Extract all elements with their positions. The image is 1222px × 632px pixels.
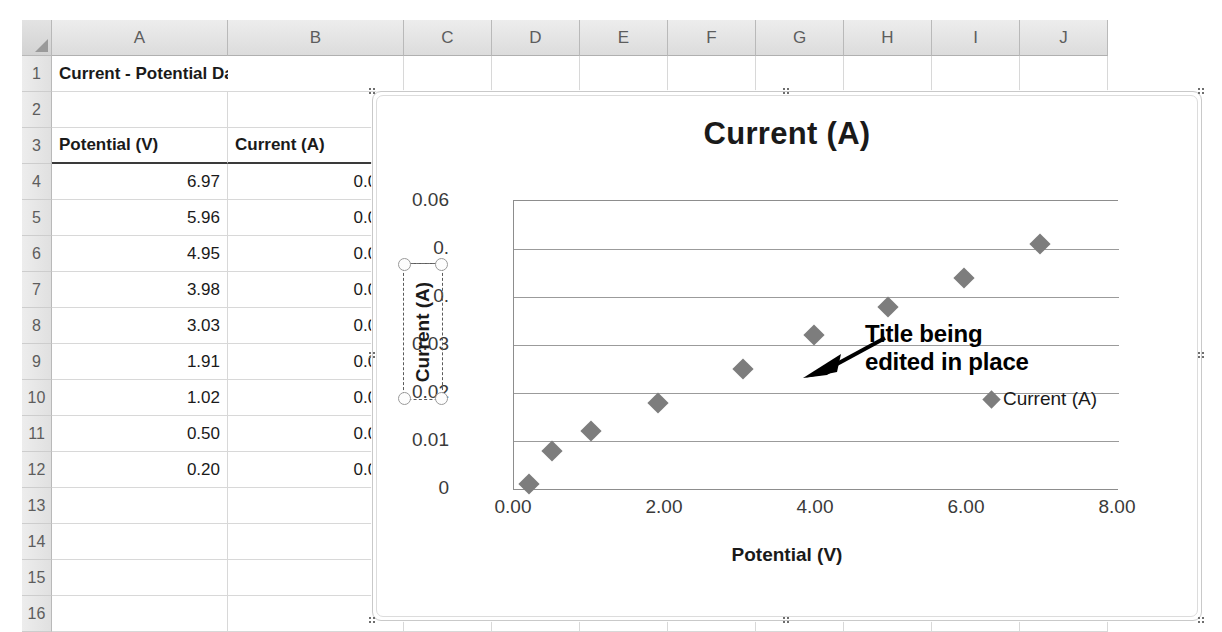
title-handle-bottom-right[interactable]	[435, 392, 448, 405]
y-tick-label: 0	[379, 477, 449, 499]
resize-handle-top-right[interactable]	[1197, 87, 1206, 96]
row-header-13[interactable]: 13	[22, 488, 52, 524]
data-point[interactable]	[953, 267, 974, 288]
row-header-16[interactable]: 16	[22, 596, 52, 632]
cell-E1[interactable]	[580, 56, 668, 92]
cell-H1[interactable]	[844, 56, 932, 92]
data-point[interactable]	[648, 392, 669, 413]
row-header-11[interactable]: 11	[22, 416, 52, 452]
row-header-column: 12345678910111213141516	[22, 56, 52, 632]
row-header-10[interactable]: 10	[22, 380, 52, 416]
title-handle-bottom-left[interactable]	[398, 392, 411, 405]
column-header-f[interactable]: F	[668, 20, 756, 56]
cell-A3[interactable]: Potential (V)	[52, 128, 228, 164]
cell-B1[interactable]	[228, 56, 404, 92]
legend-diamond-marker-icon	[982, 390, 1000, 408]
cell-A9[interactable]: 1.91	[52, 344, 228, 380]
cell-C1[interactable]	[404, 56, 492, 92]
cell-A6[interactable]: 4.95	[52, 236, 228, 272]
y-axis-title-text[interactable]: Current (A)	[412, 281, 434, 381]
column-header-i[interactable]: I	[932, 20, 1020, 56]
cell-A7[interactable]: 3.98	[52, 272, 228, 308]
row-header-3[interactable]: 3	[22, 128, 52, 164]
title-handle-top-left[interactable]	[398, 258, 411, 271]
cell-A15[interactable]	[52, 560, 228, 596]
x-tick-label: 2.00	[619, 496, 709, 518]
row-header-6[interactable]: 6	[22, 236, 52, 272]
x-tick-label: 6.00	[921, 496, 1011, 518]
row-header-12[interactable]: 12	[22, 452, 52, 488]
select-all-triangle-icon	[35, 39, 48, 52]
cell-A2[interactable]	[52, 92, 228, 128]
cell-A14[interactable]	[52, 524, 228, 560]
column-header-c[interactable]: C	[404, 20, 492, 56]
cell-A10[interactable]: 1.02	[52, 380, 228, 416]
cell-A16[interactable]	[52, 596, 228, 632]
y-tick-label: 0.06	[379, 189, 449, 211]
y-tick-label: 0.01	[379, 429, 449, 451]
legend-label: Current (A)	[1003, 388, 1097, 410]
gridline	[514, 297, 1119, 298]
resize-handle-left-middle[interactable]	[368, 351, 377, 360]
column-header-j[interactable]: J	[1020, 20, 1108, 56]
column-header-e[interactable]: E	[580, 20, 668, 56]
row-header-1[interactable]: 1	[22, 56, 52, 92]
data-point[interactable]	[732, 358, 753, 379]
row-header-2[interactable]: 2	[22, 92, 52, 128]
cell-J1[interactable]	[1020, 56, 1108, 92]
y-tick-label: 0.	[379, 237, 449, 259]
select-all-corner[interactable]	[22, 20, 52, 56]
cell-A4[interactable]: 6.97	[52, 164, 228, 200]
x-tick-label: 4.00	[770, 496, 860, 518]
annotation-line-2: edited in place	[865, 348, 1029, 376]
resize-handle-top-center[interactable]	[782, 87, 791, 96]
data-point[interactable]	[877, 296, 898, 317]
chart-legend[interactable]: Current (A)	[985, 388, 1097, 410]
row-header-8[interactable]: 8	[22, 308, 52, 344]
x-tick-label: 8.00	[1072, 496, 1162, 518]
cell-A1[interactable]: Current - Potential Data	[52, 56, 228, 92]
chart-title[interactable]: Current (A)	[373, 116, 1201, 152]
resize-handle-bottom-left[interactable]	[368, 616, 377, 625]
row-header-4[interactable]: 4	[22, 164, 52, 200]
column-header-row: ABCDEFGHIJ	[52, 20, 1108, 56]
resize-handle-bottom-right[interactable]	[1197, 616, 1206, 625]
column-header-g[interactable]: G	[756, 20, 844, 56]
gridline	[514, 441, 1119, 442]
chart-object[interactable]: Current (A) 0.060.0.0.030.020.010 0.002.…	[372, 91, 1202, 621]
cell-D1[interactable]	[492, 56, 580, 92]
data-point[interactable]	[541, 440, 562, 461]
cell-A5[interactable]: 5.96	[52, 200, 228, 236]
rotation-bar-icon	[411, 263, 435, 264]
data-point[interactable]	[580, 421, 601, 442]
cell-I1[interactable]	[932, 56, 1020, 92]
x-tick-label: 0.00	[468, 496, 558, 518]
row-header-9[interactable]: 9	[22, 344, 52, 380]
resize-handle-top-left[interactable]	[368, 87, 377, 96]
row-header-14[interactable]: 14	[22, 524, 52, 560]
annotation-line-1: Title being	[865, 320, 1029, 348]
column-header-h[interactable]: H	[844, 20, 932, 56]
resize-handle-bottom-center[interactable]	[782, 616, 791, 625]
row-header-7[interactable]: 7	[22, 272, 52, 308]
title-handle-top-right[interactable]	[435, 258, 448, 271]
gridline	[514, 249, 1119, 250]
cell-A13[interactable]	[52, 488, 228, 524]
table-row: Current - Potential Data	[52, 56, 1108, 92]
row-header-5[interactable]: 5	[22, 200, 52, 236]
cell-A12[interactable]: 0.20	[52, 452, 228, 488]
row-header-15[interactable]: 15	[22, 560, 52, 596]
column-header-a[interactable]: A	[52, 20, 228, 56]
cell-A11[interactable]: 0.50	[52, 416, 228, 452]
column-header-d[interactable]: D	[492, 20, 580, 56]
column-header-b[interactable]: B	[228, 20, 404, 56]
resize-handle-right-middle[interactable]	[1197, 351, 1206, 360]
annotation-callout: Title being edited in place	[865, 320, 1029, 377]
y-axis-title-edit-box[interactable]: Current (A)	[403, 263, 443, 400]
x-axis-title[interactable]: Potential (V)	[373, 544, 1201, 566]
cell-F1[interactable]	[668, 56, 756, 92]
cell-A8[interactable]: 3.03	[52, 308, 228, 344]
cell-G1[interactable]	[756, 56, 844, 92]
data-point[interactable]	[1030, 234, 1051, 255]
